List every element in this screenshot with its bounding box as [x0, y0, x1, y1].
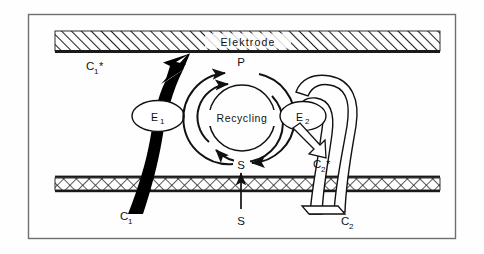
- membrane-band: [55, 176, 440, 193]
- enzyme-e2-subscript: 2: [305, 117, 310, 126]
- s-inflow-label: S: [237, 215, 245, 227]
- species-s-inflow: S: [237, 215, 245, 227]
- c1-star-asterisk: *: [99, 60, 104, 72]
- c2-subscript: 2: [349, 222, 354, 231]
- enzyme-e1: E 1: [132, 101, 184, 132]
- cycle-center-label: Recycling: [217, 112, 268, 124]
- electrode-band: Elektrode: [55, 31, 440, 53]
- product-p-label: P: [237, 56, 245, 68]
- c1-subscript: 1: [128, 217, 133, 226]
- enzyme-e1-subscript: 1: [160, 117, 165, 126]
- figure-root: Elektrode E 1: [0, 0, 484, 254]
- enzyme-e2-label: E: [296, 111, 303, 123]
- c2-star-asterisk: *: [326, 158, 331, 170]
- enzyme-e1-label: E: [151, 111, 158, 123]
- substrate-s-cycle-label: S: [237, 159, 245, 171]
- electrode-label: Elektrode: [220, 36, 275, 48]
- schematic-diagram: Elektrode E 1: [0, 0, 484, 254]
